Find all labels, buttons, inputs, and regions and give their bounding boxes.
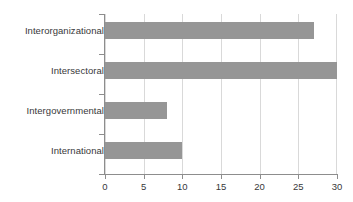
x-axis-tick-label: 30 bbox=[332, 181, 343, 192]
x-axis-tick bbox=[182, 174, 183, 179]
category-label: Intersectoral bbox=[51, 65, 104, 76]
bar bbox=[105, 102, 167, 119]
x-axis-tick bbox=[298, 174, 299, 179]
y-axis-tick bbox=[99, 134, 105, 135]
bar bbox=[105, 22, 314, 39]
category-label: Intergovernmental bbox=[27, 105, 104, 116]
x-axis-tick bbox=[337, 174, 338, 179]
bar-chart: Interorganizational Intersectoral Interg… bbox=[0, 0, 353, 202]
x-axis-tick bbox=[105, 174, 106, 179]
x-axis-tick bbox=[260, 174, 261, 179]
y-axis-tick bbox=[99, 94, 105, 95]
y-axis-tick bbox=[99, 54, 105, 55]
x-axis-tick-label: 5 bbox=[141, 181, 146, 192]
x-axis-tick-label: 0 bbox=[102, 181, 107, 192]
x-axis-tick bbox=[144, 174, 145, 179]
y-axis-tick bbox=[99, 14, 105, 15]
gridline bbox=[336, 14, 337, 174]
category-label: Interorganizational bbox=[25, 25, 104, 36]
x-axis-tick-label: 20 bbox=[254, 181, 265, 192]
x-axis-tick-label: 10 bbox=[177, 181, 188, 192]
bar bbox=[105, 142, 182, 159]
x-axis-tick-label: 15 bbox=[216, 181, 227, 192]
category-label: International bbox=[51, 145, 104, 156]
plot-area bbox=[105, 14, 337, 174]
x-axis-tick-label: 25 bbox=[293, 181, 304, 192]
x-axis-tick bbox=[221, 174, 222, 179]
bar bbox=[105, 62, 337, 79]
